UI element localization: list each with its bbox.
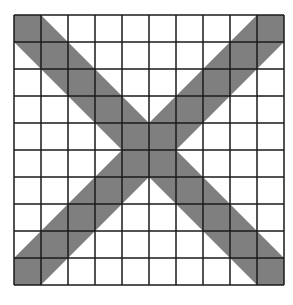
x-grid-figure — [0, 0, 293, 305]
